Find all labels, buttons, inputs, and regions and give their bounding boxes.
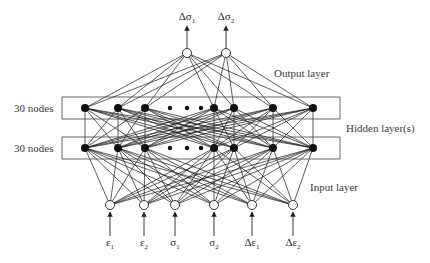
input-variable-label: ε2 (140, 237, 148, 251)
hidden-node (269, 144, 277, 152)
hidden-node (81, 104, 89, 112)
hidden-node (210, 144, 218, 152)
ellipsis-dot (168, 106, 172, 110)
input-node (289, 201, 298, 210)
ellipsis-dot (185, 146, 189, 150)
input-node (106, 201, 115, 210)
edge (118, 53, 187, 108)
input-layer-label: Input layer (310, 182, 358, 193)
output-variable-label: Δσ1 (179, 11, 196, 25)
input-variable-label: σ1 (170, 237, 179, 251)
hidden-node (210, 104, 218, 112)
output-node (183, 49, 192, 58)
output-layer-label: Output layer (274, 68, 329, 79)
edge (187, 53, 313, 108)
hidden-bottom-node-count: 30 nodes (14, 143, 53, 154)
hidden-top-node-count: 30 nodes (14, 103, 53, 114)
ellipsis-dot (199, 146, 203, 150)
hidden-node (309, 104, 317, 112)
ellipsis-dot (168, 146, 172, 150)
edge (175, 148, 313, 205)
ellipsis-dot (185, 106, 189, 110)
edge (226, 53, 313, 108)
input-variable-label: Δε2 (285, 237, 300, 251)
hidden-node (309, 144, 317, 152)
input-node (140, 201, 149, 210)
edge (118, 148, 252, 205)
edge (214, 53, 226, 108)
edge (145, 53, 187, 108)
hidden-node (269, 104, 277, 112)
edge (110, 148, 234, 205)
input-variable-label: Δε1 (244, 237, 259, 251)
edge (175, 148, 234, 205)
output-node (222, 49, 231, 58)
hidden-node (81, 144, 89, 152)
input-variable-label: ε1 (106, 237, 114, 251)
input-variable-label: σ2 (209, 237, 218, 251)
input-node (171, 201, 180, 210)
hidden-layers-label: Hidden layer(s) (346, 123, 415, 134)
hidden-node (230, 104, 238, 112)
edge (293, 148, 313, 205)
hidden-node (114, 144, 122, 152)
hidden-node (114, 104, 122, 112)
output-variable-label: Δσ2 (218, 11, 235, 25)
edge (110, 148, 273, 205)
edge (85, 53, 226, 108)
hidden-node (141, 144, 149, 152)
input-node (248, 201, 257, 210)
edge (85, 148, 110, 205)
input-node (210, 201, 219, 210)
hidden-node (230, 144, 238, 152)
edge (145, 53, 226, 108)
edge (145, 148, 293, 205)
hidden-node (141, 104, 149, 112)
edge (110, 148, 118, 205)
edge (144, 148, 234, 205)
ellipsis-dot (199, 106, 203, 110)
